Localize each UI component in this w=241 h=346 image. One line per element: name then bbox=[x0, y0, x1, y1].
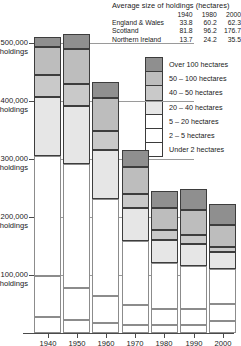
x-axis-label-2000: 2000 bbox=[203, 339, 241, 346]
bar-1970 bbox=[122, 150, 149, 333]
chart-legend: Over 100 hectares50 – 100 hectares40 – 5… bbox=[145, 58, 228, 157]
legend-item: 5 – 20 hectares bbox=[145, 115, 228, 129]
bar-segment bbox=[209, 225, 236, 247]
bar-segment bbox=[92, 150, 119, 199]
table-row: Scotland 81.8 96.2 176.7 bbox=[112, 27, 241, 35]
bar-segment bbox=[92, 131, 119, 150]
bar-segment bbox=[180, 266, 207, 309]
legend-item: 20 – 40 hectares bbox=[145, 101, 228, 115]
bar-segment bbox=[180, 309, 207, 325]
y-axis-label: 500,000holdings bbox=[0, 38, 28, 57]
row-value: 96.2 bbox=[193, 27, 217, 35]
row-value: 176.7 bbox=[217, 27, 241, 35]
legend-label: Over 100 hectares bbox=[169, 58, 228, 72]
bar-segment bbox=[180, 189, 207, 210]
legend-label: 2 – 5 hectares bbox=[169, 129, 215, 143]
average-holdings-table: Average size of holdings (hectares) 1940… bbox=[112, 1, 241, 44]
legend-swatch bbox=[145, 57, 163, 72]
bar-segment bbox=[34, 317, 61, 333]
bar-segment bbox=[92, 98, 119, 131]
bar-1950 bbox=[63, 34, 90, 333]
bar-segment bbox=[151, 325, 178, 333]
bar-segment bbox=[92, 82, 119, 98]
table-col-1940: 1940 bbox=[168, 11, 192, 19]
row-value: 33.8 bbox=[168, 19, 192, 27]
x-axis-tick bbox=[106, 333, 107, 338]
bar-segment bbox=[34, 75, 61, 97]
bar-segment bbox=[209, 269, 236, 304]
bar-1960 bbox=[92, 82, 119, 333]
legend-item: 2 – 5 hectares bbox=[145, 129, 228, 143]
legend-label: 40 – 50 hectares bbox=[169, 86, 223, 100]
legend-label: 20 – 40 hectares bbox=[169, 101, 223, 115]
legend-swatch bbox=[145, 114, 163, 129]
x-axis-tick bbox=[135, 333, 136, 338]
table-row: England & Wales 33.8 60.2 62.3 bbox=[112, 19, 241, 27]
bar-segment bbox=[180, 235, 207, 244]
bar-2000 bbox=[209, 204, 236, 333]
y-axis-label: 300,000holdings bbox=[0, 154, 28, 173]
legend-item: Under 2 hectares bbox=[145, 143, 228, 157]
row-value: 62.3 bbox=[217, 19, 241, 27]
bar-segment bbox=[92, 199, 119, 296]
bar-segment bbox=[180, 210, 207, 235]
bar-segment bbox=[63, 320, 90, 333]
table-corner-cell bbox=[112, 11, 168, 19]
bar-segment bbox=[180, 325, 207, 333]
bar-segment bbox=[209, 247, 236, 253]
bar-1990 bbox=[180, 189, 207, 333]
bar-segment bbox=[151, 191, 178, 208]
bar-segment bbox=[151, 208, 178, 230]
table-col-1980: 1980 bbox=[193, 11, 217, 19]
row-label: Scotland bbox=[112, 27, 168, 35]
bar-segment bbox=[122, 241, 149, 305]
bar-segment bbox=[209, 321, 236, 333]
row-value: 35.5 bbox=[217, 36, 241, 44]
bar-segment bbox=[151, 240, 178, 264]
x-axis-line bbox=[23, 333, 234, 334]
legend-label: Under 2 hectares bbox=[169, 143, 224, 157]
x-axis-tick bbox=[164, 333, 165, 338]
x-axis-tick bbox=[223, 333, 224, 338]
bar-segment bbox=[63, 164, 90, 288]
y-axis-label: 100,000holdings bbox=[0, 270, 28, 289]
chart-canvas: Average size of holdings (hectares) 1940… bbox=[0, 0, 241, 346]
bar-1980 bbox=[151, 191, 178, 333]
legend-item: Over 100 hectares bbox=[145, 58, 228, 72]
legend-label: 50 – 100 hectares bbox=[169, 72, 227, 86]
bar-segment bbox=[63, 288, 90, 320]
bar-segment bbox=[122, 325, 149, 333]
bar-segment bbox=[63, 84, 90, 106]
bar-segment bbox=[122, 167, 149, 194]
bar-segment bbox=[63, 34, 90, 49]
table-header-row: 1940 1980 2000 bbox=[112, 11, 241, 19]
bar-segment bbox=[34, 47, 61, 75]
bar-segment bbox=[209, 304, 236, 321]
y-axis-label: 200,000holdings bbox=[0, 212, 28, 231]
legend-label: 5 – 20 hectares bbox=[169, 115, 219, 129]
bar-segment bbox=[209, 204, 236, 224]
legend-swatch bbox=[145, 85, 163, 100]
row-value: 81.8 bbox=[168, 27, 192, 35]
bar-segment bbox=[122, 194, 149, 208]
bar-segment bbox=[34, 97, 61, 156]
bar-segment bbox=[34, 276, 61, 318]
legend-item: 40 – 50 hectares bbox=[145, 86, 228, 100]
bar-segment bbox=[122, 305, 149, 325]
legend-swatch bbox=[145, 128, 163, 143]
bar-segment bbox=[209, 252, 236, 269]
bar-segment bbox=[151, 263, 178, 308]
bar-segment bbox=[151, 309, 178, 325]
bar-segment bbox=[180, 244, 207, 266]
x-axis-tick bbox=[77, 333, 78, 338]
bar-segment bbox=[34, 37, 61, 47]
table-col-2000: 2000 bbox=[217, 11, 241, 19]
row-value: 60.2 bbox=[193, 19, 217, 27]
bar-segment bbox=[122, 208, 149, 241]
table-title: Average size of holdings (hectares) bbox=[112, 1, 241, 10]
legend-swatch bbox=[145, 71, 163, 86]
bar-segment bbox=[63, 49, 90, 84]
bar-1940 bbox=[34, 37, 61, 333]
table-body: 1940 1980 2000 England & Wales 33.8 60.2… bbox=[112, 11, 241, 44]
bar-segment bbox=[151, 230, 178, 239]
